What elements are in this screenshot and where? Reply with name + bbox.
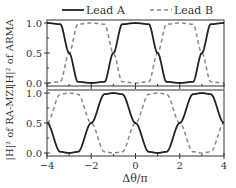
series-lead-a-arma [47,23,224,83]
series-lead-b-arma [47,23,224,83]
y-tick-label: 0.5 [26,48,42,59]
x-tick-label: 4 [221,160,227,171]
legend: Lead A Lead B [62,4,213,17]
legend-label-lead-b: Lead B [174,4,213,17]
y-ticks-ra-mzi: 0.00.51.0 [26,88,50,159]
y-axis-label-arma: |H|² of ARMA [4,18,16,87]
series-lead-a-ra-mzi [47,93,224,153]
y-axis-label-ra-mzi: |H|² of RA-MZI [4,86,16,161]
subplot-ra-mzi: 0.00.51.0 |H|² of RA-MZI [4,86,224,161]
x-tick-label: 2 [177,160,183,171]
subplot-arma: 0.00.51.0 |H|² of ARMA [4,18,224,90]
chart: Lead A Lead B 0.00.51.0 |H|² of ARMA 0.0… [0,0,236,188]
plot-frame-arma [47,20,224,86]
y-tick-label: 1.0 [26,88,42,99]
y-tick-label: 0.5 [26,118,42,129]
y-tick-label: 1.0 [26,18,42,29]
x-axis-label: Δθ/π [122,172,148,185]
y-ticks-arma: 0.00.51.0 [26,18,50,89]
x-tick-label: 0 [132,160,138,171]
legend-label-lead-a: Lead A [86,4,126,17]
x-tick-label: −2 [84,160,99,171]
x-tick-labels: −4−2024 [40,160,228,171]
x-tick-label: −4 [40,160,55,171]
y-tick-label: 0.0 [26,148,42,159]
